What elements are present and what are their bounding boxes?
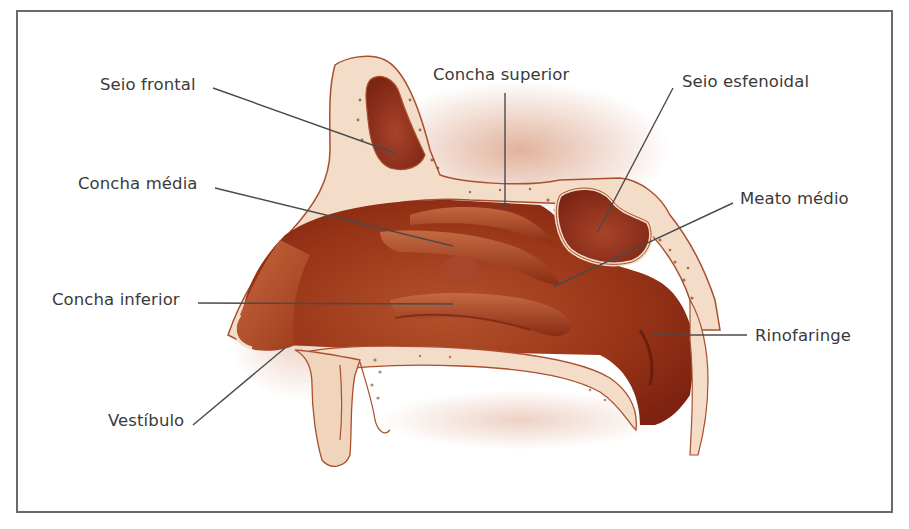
label-concha-media: Concha média bbox=[78, 176, 198, 193]
label-meato-medio: Meato médio bbox=[740, 191, 849, 208]
label-vestibulo: Vestíbulo bbox=[108, 413, 184, 430]
label-seio-frontal: Seio frontal bbox=[100, 77, 196, 94]
label-concha-inferior: Concha inferior bbox=[52, 292, 180, 309]
label-concha-superior: Concha superior bbox=[433, 67, 569, 84]
label-seio-esfenoidal: Seio esfenoidal bbox=[682, 74, 809, 91]
middle-concha-bulge bbox=[440, 256, 480, 284]
label-rinofaringe: Rinofaringe bbox=[755, 328, 851, 345]
